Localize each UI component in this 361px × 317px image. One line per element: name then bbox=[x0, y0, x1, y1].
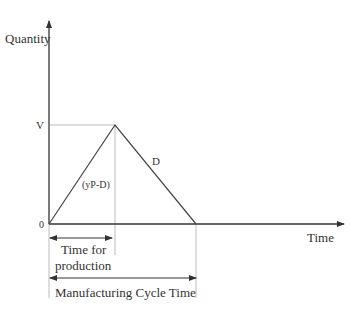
origin-label: 0 bbox=[39, 219, 44, 230]
x-axis-label: Time bbox=[307, 230, 334, 245]
production-time-label-2: production bbox=[55, 258, 112, 273]
inventory-diagram: Quantity Time V 0 (yP-D) D Time for prod… bbox=[0, 0, 361, 317]
inventory-triangle bbox=[49, 125, 196, 224]
peak-label: V bbox=[36, 119, 44, 131]
production-time-label-1: Time for bbox=[61, 242, 107, 257]
y-axis-label: Quantity bbox=[5, 31, 51, 46]
falling-slope-label: D bbox=[152, 155, 160, 167]
rising-slope-label: (yP-D) bbox=[82, 179, 110, 191]
cycle-time-label: Manufacturing Cycle Time bbox=[55, 285, 196, 300]
